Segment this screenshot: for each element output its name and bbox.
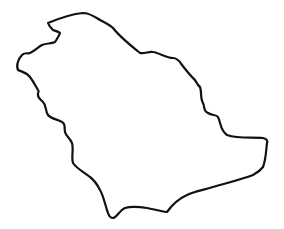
map-canvas (0, 0, 284, 229)
country-border (17, 13, 267, 218)
saudi-arabia-outline (0, 0, 284, 229)
